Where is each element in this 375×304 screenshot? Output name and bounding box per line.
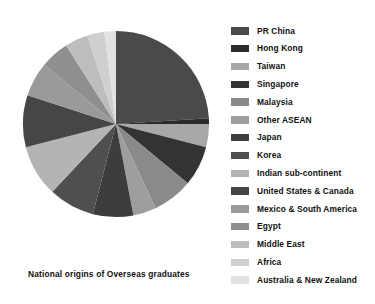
legend-item[interactable]: Africa — [231, 253, 375, 271]
legend-item[interactable]: Other ASEAN — [231, 111, 375, 129]
chart-legend: PR ChinaHong KongTaiwanSingaporeMalaysia… — [231, 22, 375, 289]
legend-item[interactable]: PR China — [231, 22, 375, 40]
legend-item-label: Taiwan — [257, 62, 285, 70]
legend-color-swatch — [231, 81, 249, 89]
legend-item-label: Middle East — [257, 240, 305, 248]
legend-item-label: Egypt — [257, 222, 281, 230]
legend-color-swatch — [231, 170, 249, 178]
legend-color-swatch — [231, 223, 249, 231]
chart-title: National origins of Overseas graduates — [28, 269, 190, 279]
legend-item-label: Malaysia — [257, 98, 293, 106]
legend-color-swatch — [231, 134, 249, 142]
legend-color-swatch — [231, 259, 249, 267]
pie-chart-figure: National origins of Overseas graduates P… — [0, 0, 375, 304]
legend-item-label: Korea — [257, 151, 281, 159]
legend-item[interactable]: Japan — [231, 129, 375, 147]
legend-item[interactable]: Taiwan — [231, 58, 375, 76]
pie-slice-group — [23, 31, 209, 217]
legend-color-swatch — [231, 276, 249, 284]
legend-color-swatch — [231, 205, 249, 213]
pie-chart-plot-area — [22, 30, 210, 218]
legend-item[interactable]: Indian sub-continent — [231, 164, 375, 182]
legend-item[interactable]: Hong Kong — [231, 40, 375, 58]
legend-item[interactable]: Australia & New Zealand — [231, 271, 375, 289]
legend-item[interactable]: Mexico & South America — [231, 200, 375, 218]
legend-color-swatch — [231, 63, 249, 71]
pie-slice[interactable] — [116, 31, 209, 124]
legend-color-swatch — [231, 241, 249, 249]
legend-item[interactable]: United States & Canada — [231, 182, 375, 200]
legend-item[interactable]: Middle East — [231, 236, 375, 254]
legend-color-swatch — [231, 152, 249, 160]
legend-color-swatch — [231, 45, 249, 53]
legend-item-label: Africa — [257, 258, 281, 266]
legend-item-label: Singapore — [257, 80, 299, 88]
legend-item-label: Mexico & South America — [257, 205, 357, 213]
legend-color-swatch — [231, 98, 249, 106]
legend-item-label: Other ASEAN — [257, 116, 312, 124]
legend-color-swatch — [231, 27, 249, 35]
legend-item-label: Australia & New Zealand — [257, 276, 357, 284]
legend-item-label: Indian sub-continent — [257, 169, 341, 177]
legend-item[interactable]: Singapore — [231, 75, 375, 93]
legend-color-swatch — [231, 116, 249, 124]
pie-chart-svg — [22, 30, 210, 218]
legend-item[interactable]: Malaysia — [231, 93, 375, 111]
legend-item-label: PR China — [257, 27, 295, 35]
legend-item[interactable]: Korea — [231, 147, 375, 165]
legend-color-swatch — [231, 187, 249, 195]
legend-item-label: Japan — [257, 133, 282, 141]
legend-item-label: United States & Canada — [257, 187, 354, 195]
legend-item[interactable]: Egypt — [231, 218, 375, 236]
legend-item-label: Hong Kong — [257, 44, 303, 52]
